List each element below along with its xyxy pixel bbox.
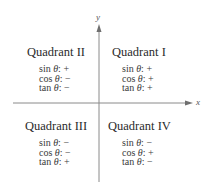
x-axis-arrow-icon: [185, 101, 193, 106]
y-axis-label: y: [96, 12, 100, 22]
quadrant-3: Quadrant III sin θ: − cos θ: − tan θ: +: [25, 120, 87, 167]
quadrant-1: Quadrant I sin θ: + cos θ: + tan θ: +: [112, 46, 166, 93]
quadrant-title: Quadrant II: [27, 46, 85, 59]
quadrant-4: Quadrant IV sin θ: − cos θ: + tan θ: −: [108, 120, 171, 167]
quadrant-title: Quadrant I: [112, 46, 166, 59]
sign-list: sin θ: − cos θ: + tan θ: −: [122, 138, 171, 167]
quadrant-2: Quadrant II sin θ: + cos θ: − tan θ: −: [27, 46, 85, 93]
tan-sign-row: tan θ: −: [122, 157, 171, 167]
quadrant-title: Quadrant III: [25, 120, 87, 133]
quadrant-title: Quadrant IV: [108, 120, 171, 133]
sign-list: sin θ: + cos θ: − tan θ: −: [39, 64, 85, 93]
x-axis-label: x: [196, 97, 200, 107]
y-axis-arrow-icon: [97, 24, 102, 32]
tan-sign-row: tan θ: −: [39, 83, 85, 93]
sign-list: sin θ: − cos θ: − tan θ: +: [39, 138, 87, 167]
tan-sign-row: tan θ: +: [122, 83, 166, 93]
tan-sign-row: tan θ: +: [39, 157, 87, 167]
sign-list: sin θ: + cos θ: + tan θ: +: [122, 64, 166, 93]
